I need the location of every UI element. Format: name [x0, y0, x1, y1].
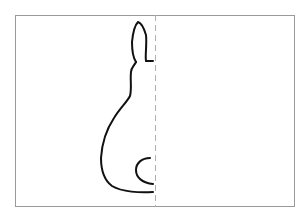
rabbit-body-outline — [101, 62, 153, 192]
rabbit-tail-outline — [136, 158, 153, 184]
rabbit-half-outline-drawing — [0, 0, 299, 214]
rabbit-ear-outline — [132, 22, 153, 62]
